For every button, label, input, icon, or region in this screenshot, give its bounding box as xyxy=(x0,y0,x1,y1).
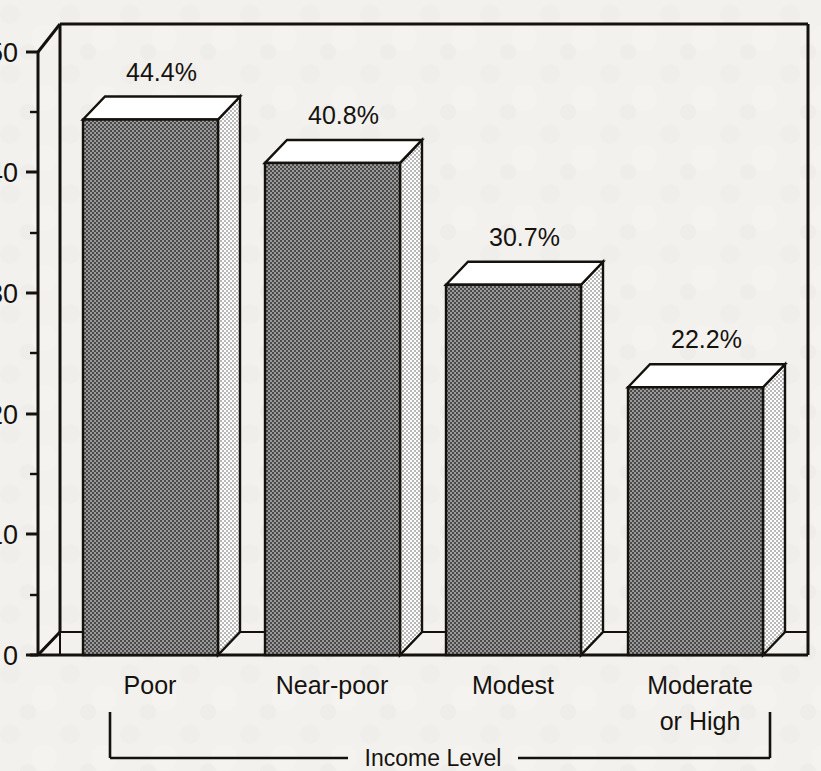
bar-value-label: 44.4% xyxy=(126,58,197,86)
bar-value-label: 30.7% xyxy=(489,223,560,251)
category-label-modest: Modest xyxy=(472,671,554,699)
category-label-poor: Poor xyxy=(124,671,177,699)
category-label-near-poor: Near-poor xyxy=(276,671,389,699)
bar-top-face xyxy=(83,97,240,120)
y-tick-label-0: 0 xyxy=(3,641,18,671)
bar-group: 30.7% xyxy=(446,223,603,655)
bar-top-face xyxy=(628,364,785,387)
bar-front-face xyxy=(83,120,218,655)
bar-side-face xyxy=(581,262,603,655)
bar-value-label: 22.2% xyxy=(671,325,742,353)
bar-group: 22.2% xyxy=(628,325,785,655)
bar-top-face xyxy=(446,262,603,285)
y-tick-label-30: 30 xyxy=(0,279,18,309)
x-axis-title: Income Level xyxy=(365,745,502,771)
bar-side-face xyxy=(763,364,785,655)
y-tick-label-10: 10 xyxy=(0,520,18,550)
bar-group: 44.4% xyxy=(83,58,240,655)
bar-value-label: 40.8% xyxy=(308,101,379,129)
chart-svg: 0 10 20 30 40 50 44.4%40.8%30.7%22.2% Po… xyxy=(0,0,821,771)
bar-front-face xyxy=(628,387,763,655)
bar-side-face xyxy=(400,140,422,655)
bar-group: 40.8% xyxy=(265,101,422,655)
category-label-moderate-or-high-line2: or High xyxy=(660,707,741,735)
category-label-moderate-or-high-line1: Moderate xyxy=(647,671,753,699)
y-tick-label-20: 20 xyxy=(0,400,18,430)
bar-front-face xyxy=(446,285,581,655)
bar-top-face xyxy=(265,140,422,163)
y-tick-label-40: 40 xyxy=(0,158,18,188)
bar-front-face xyxy=(265,163,400,655)
y-tick-label-50: 50 xyxy=(0,38,18,68)
bar-chart: 0 10 20 30 40 50 44.4%40.8%30.7%22.2% Po… xyxy=(0,0,821,771)
bar-side-face xyxy=(218,97,240,655)
